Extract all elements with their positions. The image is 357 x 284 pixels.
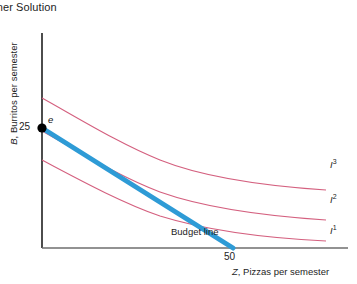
y-axis-title-text: , Burritos per semester xyxy=(8,42,19,138)
y-axis-title: B, Burritos per semester xyxy=(8,29,19,159)
curve-label-i3: I3 xyxy=(330,158,337,170)
plot-canvas xyxy=(0,0,357,284)
x-axis-title-text: , Pizzas per semester xyxy=(238,266,329,277)
curve-label-i1: I1 xyxy=(330,224,337,236)
y-axis-variable: B xyxy=(8,138,19,144)
curve-label-i2: I2 xyxy=(330,193,337,205)
point-e-label: e xyxy=(48,114,53,125)
y-axis-tick-25: 25 xyxy=(19,121,30,132)
axis-lines xyxy=(42,33,348,248)
budget-line-label: Budget line xyxy=(171,226,219,237)
x-axis-title: Z, Pizzas per semester xyxy=(232,266,329,277)
indifference-curve-i3 xyxy=(42,98,326,190)
x-axis-tick-50: 50 xyxy=(224,251,235,262)
point-e-marker xyxy=(37,123,46,132)
indifference-curve-i2 xyxy=(42,131,326,220)
figure-corner-solution: rner Solution B, Burritos per semester Z… xyxy=(0,0,357,284)
point-e-group xyxy=(37,123,46,132)
